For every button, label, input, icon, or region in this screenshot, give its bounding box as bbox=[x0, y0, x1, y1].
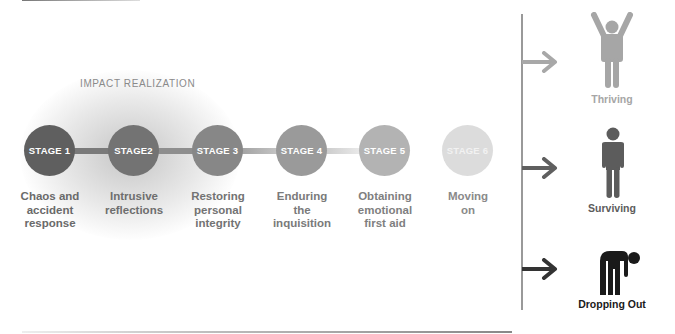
top-rule bbox=[22, 0, 140, 1]
stage-2-description: Intrusive reflections bbox=[94, 190, 174, 217]
arrow-right-icon bbox=[522, 258, 560, 280]
stage-2-circle: STAGE2 bbox=[108, 125, 159, 176]
bottom-rule bbox=[22, 331, 512, 333]
stage-3-circle: STAGE 3 bbox=[192, 125, 243, 176]
stage-1-label: STAGE 1 bbox=[29, 145, 70, 156]
outcome-thriving: Thriving bbox=[567, 93, 657, 105]
stage-5-label: STAGE 5 bbox=[364, 145, 405, 156]
stage-6-label: STAGE 6 bbox=[447, 145, 488, 156]
person-arms-raised-icon bbox=[590, 12, 634, 92]
connector-2-3 bbox=[154, 148, 196, 154]
stage-1-description: Chaos and accident response bbox=[10, 190, 90, 231]
stage-6-description: Moving on bbox=[428, 190, 508, 217]
stage-3-description: Restoring personal integrity bbox=[178, 190, 258, 231]
connector-1-2 bbox=[70, 148, 112, 154]
stage-6-circle: STAGE 6 bbox=[442, 125, 493, 176]
person-standing-icon bbox=[598, 125, 628, 200]
connector-4-5 bbox=[321, 148, 363, 154]
outcome-surviving: Surviving bbox=[567, 202, 657, 214]
stage-4-description: Enduring the inquisition bbox=[262, 190, 342, 231]
arrow-right-icon bbox=[522, 157, 560, 179]
stage-3-label: STAGE 3 bbox=[197, 145, 238, 156]
stage-5-circle: STAGE 5 bbox=[359, 125, 410, 176]
arrow-right-icon bbox=[522, 51, 560, 73]
connector-3-4 bbox=[238, 148, 280, 154]
stage-2-label: STAGE2 bbox=[114, 145, 153, 156]
phase-label: IMPACT REALIZATION bbox=[80, 78, 195, 89]
outcome-dropping-out: Dropping Out bbox=[567, 298, 657, 310]
stage-5-description: Obtaining emotional first aid bbox=[345, 190, 425, 231]
stage-1-circle: STAGE 1 bbox=[24, 125, 75, 176]
person-bent-over-icon bbox=[596, 247, 642, 297]
stage-4-circle: STAGE 4 bbox=[276, 125, 327, 176]
stage-4-label: STAGE 4 bbox=[281, 145, 322, 156]
